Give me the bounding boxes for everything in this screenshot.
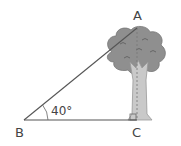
- side-ab: [24, 28, 137, 120]
- angle-label: 40°: [51, 104, 72, 118]
- angle-arc: [43, 105, 48, 120]
- vertex-label-a: A: [133, 8, 142, 23]
- vertex-label-b: B: [15, 125, 24, 140]
- vertex-label-c: C: [132, 125, 141, 140]
- triangle-diagram: 40° A B C: [0, 0, 181, 146]
- tree-icon: [107, 26, 165, 120]
